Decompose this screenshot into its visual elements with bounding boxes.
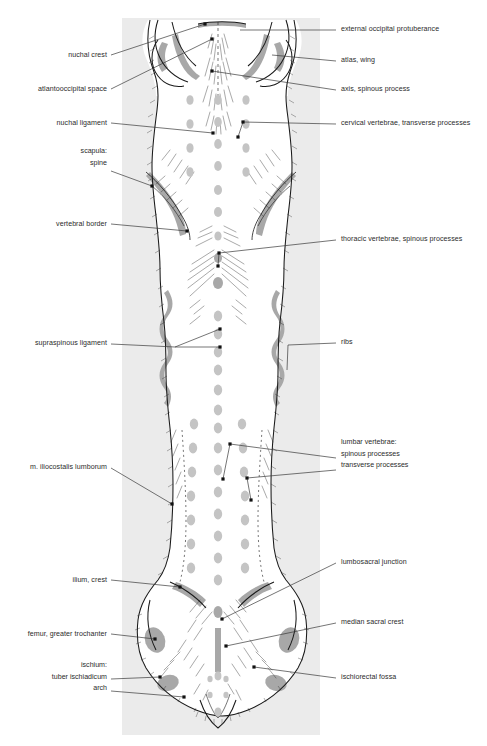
palpation-dot: [214, 707, 221, 716]
leader-endpoint: [221, 477, 224, 480]
leader-endpoint: [220, 617, 223, 620]
label-lumbar-spinous-processes: spinous processes: [341, 449, 408, 461]
palpation-dot: [214, 161, 222, 171]
leader-endpoint: [150, 184, 153, 187]
palpation-dot: [187, 539, 195, 550]
palpation-dot: [214, 117, 222, 127]
leader-endpoint: [182, 695, 185, 698]
palpation-dot: [223, 692, 228, 698]
leader-endpoint: [210, 37, 213, 40]
palpation-dot: [214, 311, 222, 322]
leader-endpoint: [211, 131, 214, 134]
palpation-dot: [214, 423, 222, 434]
leader-endpoint: [153, 637, 156, 640]
palpation-dot: [188, 467, 196, 478]
anatomy-drawing: [135, 20, 309, 728]
palpation-dot: [214, 231, 221, 240]
label-scapula-spine: spine: [81, 158, 107, 170]
palpation-dot: [189, 443, 197, 454]
palpation-dot: [207, 692, 212, 698]
leader-endpoint: [252, 665, 255, 668]
palpation-dot: [214, 575, 222, 586]
label-lumbosacral-junction: lumbosacral junction: [341, 559, 407, 566]
label-atlantooccipital-space: atlantooccipital space: [38, 86, 107, 93]
thoracic-spine-dot: [213, 277, 223, 289]
label-ischium: ischium:: [52, 660, 107, 672]
label-ischiorectal-fossa: ischiorectal fossa: [341, 674, 396, 681]
palpation-dot: [223, 676, 228, 682]
palpation-dot: [238, 419, 246, 430]
palpation-dot: [242, 167, 249, 177]
palpation-dot: [241, 563, 249, 574]
palpation-dot: [215, 672, 222, 681]
leader-endpoint: [178, 585, 181, 588]
leader-endpoint: [217, 251, 220, 254]
palpation-dot: [186, 167, 193, 177]
palpation-dot: [214, 139, 222, 149]
leader-endpoint: [236, 135, 239, 138]
label-scapula: scapula:: [81, 146, 107, 158]
palpation-dot: [214, 553, 222, 564]
palpation-dot: [214, 405, 222, 416]
palpation-dot: [241, 491, 249, 502]
label-femur-greater-trochanter: femur, greater trochanter: [28, 631, 107, 638]
leader-endpoint: [249, 498, 252, 501]
palpation-dot: [214, 443, 222, 454]
label-lumbar-vertebrae-group: lumbar vertebrae: spinous processes tran…: [341, 437, 408, 472]
palpation-dot: [242, 143, 249, 153]
leader-endpoint: [158, 675, 161, 678]
palpation-dot: [214, 207, 222, 217]
palpation-dot: [187, 515, 195, 526]
palpation-dot: [214, 95, 222, 105]
label-atlas-wing: atlas, wing: [341, 57, 375, 64]
leader-endpoint: [216, 264, 219, 267]
label-supraspinous-ligament: supraspinous ligament: [35, 340, 107, 347]
leader-endpoint: [241, 120, 244, 123]
leader-endpoint: [185, 229, 188, 232]
label-ribs: ribs: [341, 339, 353, 346]
sacral-dot: [214, 606, 223, 618]
palpation-dot: [186, 119, 193, 129]
label-tuber-ischiadicum: tuber ischiadicum: [52, 672, 107, 684]
label-scapula-group: scapula: spine: [81, 146, 107, 169]
palpation-dot: [190, 419, 198, 430]
palpation-dot: [186, 95, 193, 105]
label-axis-spinous-process: axis, spinous process: [341, 86, 410, 93]
palpation-dot: [214, 531, 222, 542]
label-lumbar-transverse-processes: transverse processes: [341, 460, 408, 472]
palpation-dot: [214, 487, 222, 498]
label-external-occipital-protuberance: external occipital protuberance: [341, 26, 439, 33]
palpation-dot: [214, 465, 222, 476]
palpation-dot: [242, 95, 249, 105]
palpation-dot: [214, 509, 222, 520]
palpation-dot: [241, 539, 249, 550]
palpation-dot: [187, 491, 195, 502]
palpation-dot: [214, 365, 222, 376]
label-lumbar-vertebrae: lumbar vertebrae:: [341, 437, 408, 449]
palpation-dot: [240, 467, 248, 478]
palpation-dot: [187, 563, 195, 574]
leader-endpoint: [210, 69, 213, 72]
leader-endpoint: [224, 644, 227, 647]
leader-endpoint: [245, 476, 248, 479]
label-cervical-vertebrae-transverse-processes: cervical vertebrae, transverse processes: [341, 120, 470, 127]
label-median-sacral-crest: median sacral crest: [341, 619, 403, 626]
palpation-dot: [207, 676, 212, 682]
label-thoracic-vertebrae-spinous-processes: thoracic vertebrae, spinous processes: [341, 236, 462, 243]
palpation-dot: [241, 515, 249, 526]
label-nuchal-crest: nuchal crest: [68, 52, 107, 59]
label-nuchal-ligament: nuchal ligament: [57, 120, 107, 127]
leader-endpoint: [170, 502, 173, 505]
palpation-dot: [239, 443, 247, 454]
palpation-dot: [214, 385, 222, 396]
median-sacral-crest-band: [215, 628, 221, 672]
palpation-dot: [186, 143, 193, 153]
palpation-dot: [214, 185, 222, 195]
label-m-iliocostalis-lumborum: m. iliocostalis lumborum: [30, 464, 107, 471]
label-arch: arch: [52, 683, 107, 695]
leader-endpoint: [228, 442, 231, 445]
leader-endpoint: [203, 22, 206, 25]
leader-endpoint: [218, 345, 221, 348]
label-ischium-group: ischium: tuber ischiadicum arch: [52, 660, 107, 695]
leader-endpoint: [218, 327, 221, 330]
